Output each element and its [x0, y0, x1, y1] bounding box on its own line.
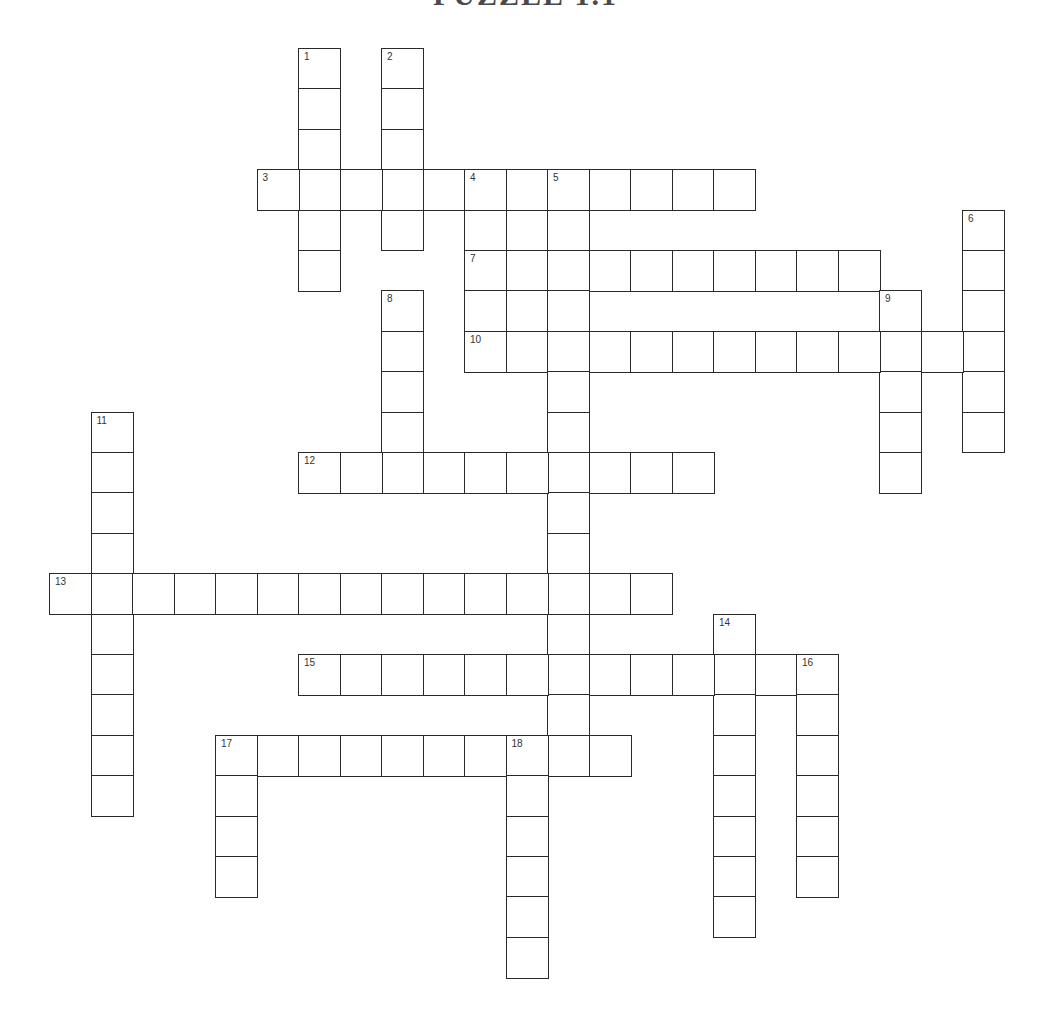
crossword-cell[interactable]: 17	[215, 735, 258, 777]
crossword-cell[interactable]: 14	[713, 614, 756, 656]
crossword-cell[interactable]	[340, 654, 383, 696]
crossword-cell[interactable]	[506, 816, 549, 858]
crossword-cell[interactable]: 8	[381, 290, 424, 332]
crossword-cell[interactable]	[879, 412, 922, 454]
crossword-cell[interactable]	[91, 533, 134, 575]
crossword-cell[interactable]	[298, 735, 341, 777]
crossword-cell[interactable]	[381, 169, 424, 211]
crossword-cell[interactable]	[713, 896, 756, 938]
crossword-cell[interactable]	[962, 371, 1005, 413]
crossword-cell[interactable]	[506, 250, 549, 292]
crossword-cell[interactable]	[91, 654, 134, 696]
crossword-cell[interactable]	[589, 452, 632, 494]
crossword-cell[interactable]	[547, 452, 590, 494]
crossword-cell[interactable]: 3	[257, 169, 300, 211]
crossword-cell[interactable]	[381, 412, 424, 454]
crossword-cell[interactable]	[91, 694, 134, 736]
crossword-cell[interactable]	[381, 573, 424, 615]
crossword-cell[interactable]	[381, 452, 424, 494]
crossword-cell[interactable]	[796, 735, 839, 777]
crossword-cell[interactable]	[298, 250, 341, 292]
crossword-cell[interactable]	[547, 533, 590, 575]
crossword-cell[interactable]	[91, 735, 134, 777]
crossword-cell[interactable]	[298, 573, 341, 615]
crossword-cell[interactable]	[713, 694, 756, 736]
crossword-cell[interactable]	[464, 573, 507, 615]
crossword-cell[interactable]: 9	[879, 290, 922, 332]
crossword-cell[interactable]	[340, 735, 383, 777]
crossword-cell[interactable]	[547, 371, 590, 413]
crossword-cell[interactable]	[796, 250, 839, 292]
crossword-cell[interactable]	[547, 654, 590, 696]
crossword-cell[interactable]	[257, 573, 300, 615]
crossword-cell[interactable]: 13	[49, 573, 92, 615]
crossword-cell[interactable]	[423, 452, 466, 494]
crossword-cell[interactable]	[340, 573, 383, 615]
crossword-cell[interactable]: 15	[298, 654, 341, 696]
crossword-cell[interactable]: 10	[464, 331, 507, 373]
crossword-cell[interactable]	[630, 331, 673, 373]
crossword-cell[interactable]	[132, 573, 175, 615]
crossword-cell[interactable]: 4	[464, 169, 507, 211]
crossword-cell[interactable]	[921, 331, 964, 373]
crossword-cell[interactable]	[257, 735, 300, 777]
crossword-cell[interactable]	[879, 371, 922, 413]
crossword-cell[interactable]	[381, 331, 424, 373]
crossword-cell[interactable]	[464, 654, 507, 696]
crossword-cell[interactable]	[547, 735, 590, 777]
crossword-cell[interactable]	[423, 654, 466, 696]
crossword-cell[interactable]	[589, 331, 632, 373]
crossword-cell[interactable]	[630, 250, 673, 292]
crossword-cell[interactable]	[298, 210, 341, 252]
crossword-cell[interactable]	[713, 856, 756, 898]
crossword-cell[interactable]	[464, 210, 507, 252]
crossword-cell[interactable]	[796, 816, 839, 858]
crossword-cell[interactable]	[879, 452, 922, 494]
crossword-cell[interactable]	[589, 735, 632, 777]
crossword-cell[interactable]: 6	[962, 210, 1005, 252]
crossword-cell[interactable]: 5	[547, 169, 590, 211]
crossword-cell[interactable]	[796, 694, 839, 736]
crossword-cell[interactable]	[962, 290, 1005, 332]
crossword-cell[interactable]	[547, 492, 590, 534]
crossword-cell[interactable]	[713, 735, 756, 777]
crossword-cell[interactable]	[547, 210, 590, 252]
crossword-cell[interactable]	[464, 452, 507, 494]
crossword-cell[interactable]	[506, 654, 549, 696]
crossword-cell[interactable]	[174, 573, 217, 615]
crossword-cell[interactable]	[547, 614, 590, 656]
crossword-cell[interactable]	[672, 452, 715, 494]
crossword-cell[interactable]	[423, 169, 466, 211]
crossword-cell[interactable]	[340, 169, 383, 211]
crossword-cell[interactable]	[381, 88, 424, 130]
crossword-cell[interactable]	[506, 210, 549, 252]
crossword-cell[interactable]	[91, 452, 134, 494]
crossword-cell[interactable]	[215, 775, 258, 817]
crossword-cell[interactable]	[298, 88, 341, 130]
crossword-cell[interactable]: 1	[298, 48, 341, 90]
crossword-cell[interactable]	[381, 129, 424, 171]
crossword-cell[interactable]	[91, 573, 134, 615]
crossword-cell[interactable]	[672, 169, 715, 211]
crossword-cell[interactable]	[589, 250, 632, 292]
crossword-cell[interactable]	[298, 169, 341, 211]
crossword-cell[interactable]	[506, 169, 549, 211]
crossword-cell[interactable]: 18	[506, 735, 549, 777]
crossword-cell[interactable]	[215, 816, 258, 858]
crossword-cell[interactable]	[713, 816, 756, 858]
crossword-cell[interactable]	[547, 331, 590, 373]
crossword-cell[interactable]: 12	[298, 452, 341, 494]
crossword-cell[interactable]	[589, 573, 632, 615]
crossword-cell[interactable]	[962, 412, 1005, 454]
crossword-cell[interactable]	[755, 654, 798, 696]
crossword-cell[interactable]	[506, 290, 549, 332]
crossword-cell[interactable]	[796, 331, 839, 373]
crossword-cell[interactable]	[215, 573, 258, 615]
crossword-cell[interactable]	[464, 290, 507, 332]
crossword-cell[interactable]	[713, 331, 756, 373]
crossword-cell[interactable]	[547, 694, 590, 736]
crossword-cell[interactable]	[547, 250, 590, 292]
crossword-cell[interactable]	[630, 169, 673, 211]
crossword-cell[interactable]	[630, 452, 673, 494]
crossword-cell[interactable]	[423, 735, 466, 777]
